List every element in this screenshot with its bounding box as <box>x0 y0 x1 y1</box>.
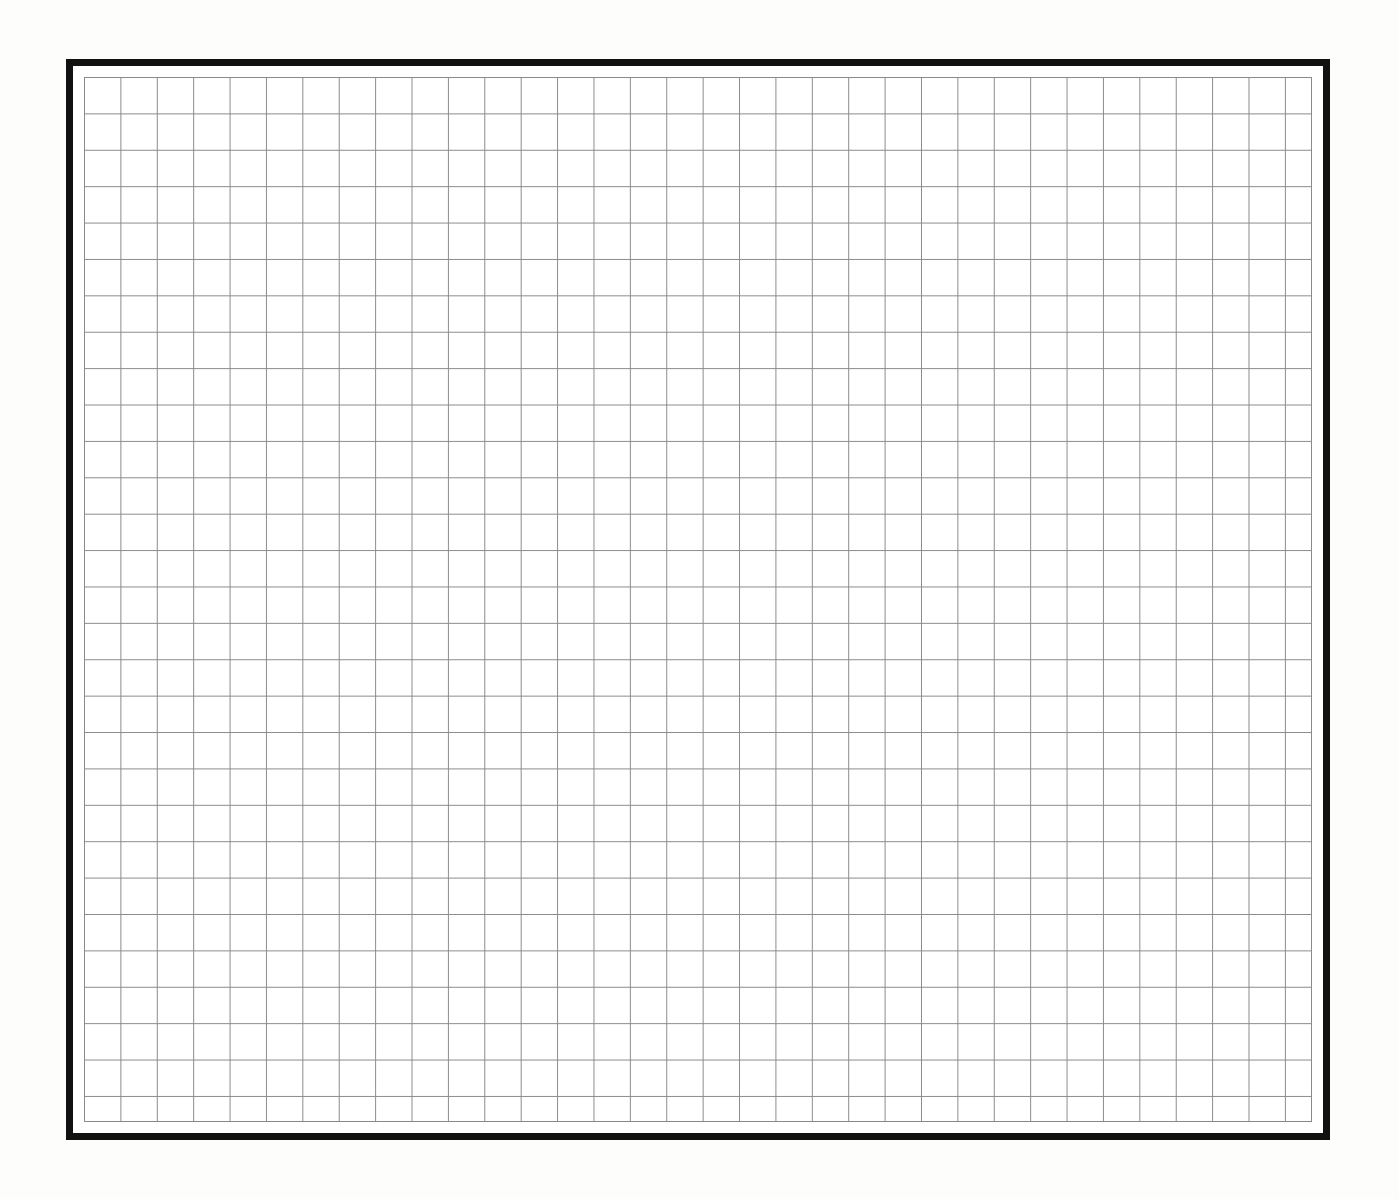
ruled-grid <box>84 77 1312 1122</box>
outer-black-border <box>66 59 1330 1140</box>
page-root: Blank Grid Sheet <box>0 0 1399 1199</box>
